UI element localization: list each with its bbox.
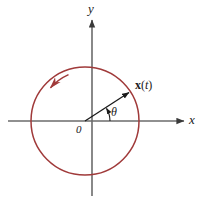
position-vector-label: x(t)	[135, 79, 152, 91]
angle-arc	[107, 108, 111, 121]
math-diagram-canvas	[0, 0, 200, 203]
vector-close-paren: )	[148, 78, 152, 92]
figure-container: y x 0 θ x(t)	[0, 0, 200, 203]
origin-label: 0	[76, 124, 82, 135]
x-axis-label: x	[189, 113, 195, 126]
theta-angle-label: θ	[111, 106, 117, 118]
y-axis-label: y	[88, 2, 94, 15]
